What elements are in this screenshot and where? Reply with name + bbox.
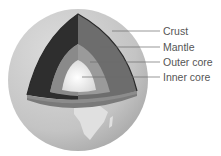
label-inner-core: Inner core bbox=[163, 71, 210, 83]
label-crust: Crust bbox=[163, 25, 188, 37]
label-mantle: Mantle bbox=[163, 41, 195, 53]
label-outer-core: Outer core bbox=[163, 56, 213, 68]
